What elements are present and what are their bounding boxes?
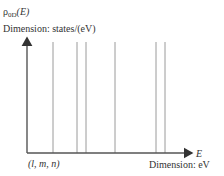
origin-label: (l, m, n) [28, 158, 60, 170]
delta-lines [53, 42, 165, 153]
x-axis-dimension: Dimension: eV [149, 159, 210, 171]
dos-plot [0, 0, 224, 176]
